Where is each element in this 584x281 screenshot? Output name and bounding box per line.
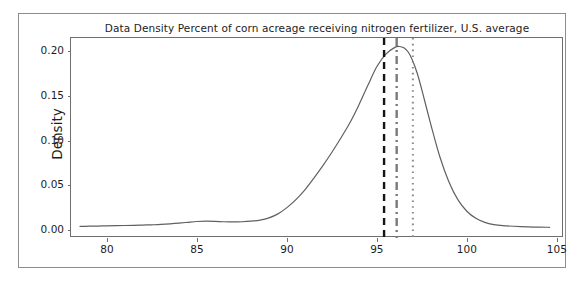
y-tick-label: 0.00 bbox=[41, 223, 64, 235]
x-tick-mark bbox=[107, 238, 108, 242]
x-tick-label: 95 bbox=[370, 243, 383, 255]
x-tick-mark bbox=[557, 238, 558, 242]
y-tick-mark bbox=[68, 96, 72, 97]
density-curve bbox=[80, 46, 550, 227]
y-tick-label: 0.15 bbox=[41, 89, 64, 101]
chart-title: Data Density Percent of corn acreage rec… bbox=[70, 22, 564, 34]
series-group bbox=[80, 46, 550, 227]
x-tick-label: 100 bbox=[457, 243, 477, 255]
y-tick-mark bbox=[68, 141, 72, 142]
y-axis-label: Density bbox=[49, 108, 65, 159]
x-tick-mark bbox=[377, 238, 378, 242]
x-tick-mark bbox=[197, 238, 198, 242]
plot-area: 0.000.050.100.150.20 80859095100105 Dens… bbox=[70, 37, 563, 237]
x-tick-label: 85 bbox=[190, 243, 203, 255]
y-tick-mark bbox=[68, 51, 72, 52]
reference-lines-group bbox=[384, 38, 413, 238]
x-tick-mark bbox=[287, 238, 288, 242]
x-tick-label: 90 bbox=[280, 243, 293, 255]
figure-canvas: Data Density Percent of corn acreage rec… bbox=[0, 0, 584, 281]
y-tick-mark bbox=[68, 230, 72, 231]
y-tick-label: 0.05 bbox=[41, 178, 64, 190]
x-tick-label: 105 bbox=[547, 243, 567, 255]
x-tick-mark bbox=[467, 238, 468, 242]
y-tick-label: 0.20 bbox=[41, 44, 64, 56]
density-curve-svg bbox=[71, 38, 564, 238]
y-tick-mark bbox=[68, 185, 72, 186]
x-tick-label: 80 bbox=[100, 243, 113, 255]
